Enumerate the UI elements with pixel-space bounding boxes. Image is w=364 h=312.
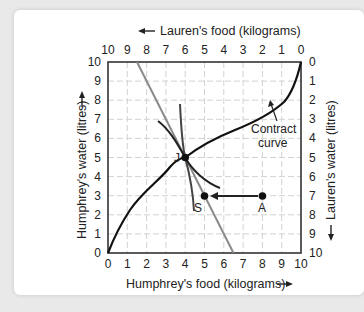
- svg-text:curve: curve: [258, 136, 288, 150]
- svg-text:Humphrey's water (litres): Humphrey's water (litres): [75, 100, 89, 239]
- svg-text:2: 2: [143, 257, 150, 271]
- svg-text:8: 8: [143, 43, 150, 57]
- top-axis-ticks: 10 9 8 7 6 5 4 3 2 1 0: [101, 43, 304, 57]
- right-axis-title: Lauren's water (litres): [324, 100, 338, 241]
- svg-text:7: 7: [94, 112, 101, 126]
- label-j: J: [174, 151, 180, 165]
- svg-text:6: 6: [94, 131, 101, 145]
- bottom-axis-title: Humphrey's food (kilograms): [126, 277, 293, 291]
- svg-text:2: 2: [94, 208, 101, 222]
- svg-text:7: 7: [240, 257, 247, 271]
- svg-text:1: 1: [309, 74, 316, 88]
- left-axis-ticks: 0 1 2 3 4 5 6 7 8 9 10: [88, 55, 102, 260]
- svg-text:4: 4: [182, 257, 189, 271]
- svg-text:3: 3: [240, 43, 247, 57]
- bottom-axis-ticks: 0 1 2 3 4 5 6 7 8 9 10: [105, 257, 308, 271]
- svg-text:Humphrey's food (kilograms): Humphrey's food (kilograms): [126, 277, 285, 291]
- svg-text:3: 3: [163, 257, 170, 271]
- svg-text:Lauren's food (kilograms): Lauren's food (kilograms): [160, 24, 301, 38]
- svg-text:3: 3: [94, 189, 101, 203]
- svg-text:5: 5: [201, 257, 208, 271]
- svg-text:1: 1: [278, 43, 285, 57]
- left-axis-title: Humphrey's water (litres): [75, 91, 89, 239]
- grid: [108, 62, 301, 253]
- label-s: S: [194, 201, 202, 215]
- svg-text:10: 10: [294, 257, 308, 271]
- svg-text:6: 6: [220, 257, 227, 271]
- svg-text:2: 2: [259, 43, 266, 57]
- point-j: [181, 154, 189, 162]
- svg-text:4: 4: [309, 131, 316, 145]
- svg-text:4: 4: [94, 170, 101, 184]
- svg-text:1: 1: [94, 227, 101, 241]
- svg-text:8: 8: [94, 93, 101, 107]
- svg-text:2: 2: [309, 93, 316, 107]
- svg-text:9: 9: [278, 257, 285, 271]
- svg-text:5: 5: [309, 151, 316, 165]
- svg-text:7: 7: [309, 189, 316, 203]
- svg-text:4: 4: [220, 43, 227, 57]
- right-axis-ticks: 0 1 2 3 4 5 6 7 8 9 10: [309, 55, 323, 260]
- svg-text:6: 6: [182, 43, 189, 57]
- point-s: [201, 192, 209, 200]
- svg-text:7: 7: [163, 43, 170, 57]
- svg-text:10: 10: [101, 43, 115, 57]
- svg-text:5: 5: [94, 151, 101, 165]
- top-axis-title: Lauren's food (kilograms): [138, 24, 301, 38]
- svg-text:8: 8: [309, 208, 316, 222]
- svg-text:Lauren's water (litres): Lauren's water (litres): [324, 100, 338, 220]
- point-a: [259, 192, 267, 200]
- svg-text:10: 10: [88, 55, 102, 69]
- svg-text:3: 3: [309, 112, 316, 126]
- svg-text:10: 10: [309, 246, 323, 260]
- svg-text:9: 9: [124, 43, 131, 57]
- label-a: A: [258, 201, 266, 215]
- svg-text:8: 8: [259, 257, 266, 271]
- svg-text:0: 0: [105, 257, 112, 271]
- contract-curve-annotation: Contract curve: [251, 100, 297, 150]
- svg-text:0: 0: [94, 246, 101, 260]
- svg-text:0: 0: [298, 43, 305, 57]
- arrow-a-to-s: [210, 192, 258, 200]
- svg-text:9: 9: [94, 74, 101, 88]
- svg-text:0: 0: [309, 55, 316, 69]
- svg-text:6: 6: [309, 170, 316, 184]
- svg-text:5: 5: [201, 43, 208, 57]
- svg-text:Contract: Contract: [251, 122, 297, 136]
- svg-text:9: 9: [309, 227, 316, 241]
- svg-text:1: 1: [124, 257, 131, 271]
